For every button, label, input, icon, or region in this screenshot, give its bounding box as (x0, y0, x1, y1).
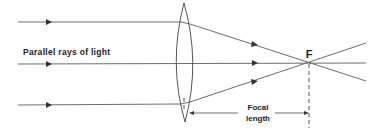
parallel-rays-label: Parallel rays of light (23, 47, 110, 57)
focal-length-label-line2: length (246, 114, 270, 123)
arrow-icon (46, 102, 52, 108)
focal-length-label-line1: Focal (248, 103, 269, 112)
lens-right-surface (184, 3, 193, 122)
incoming-ray-bottom (18, 104, 181, 105)
arrow-icon (252, 60, 258, 66)
lens-bottom-ray-segment (181, 102, 190, 104)
focal-length-indicator: Focal length (189, 103, 309, 123)
convex-lens-diagram: F Focal length Parallel rays of light (0, 0, 384, 133)
arrow-left-icon (189, 111, 194, 115)
incoming-rays (18, 19, 366, 108)
arrow-icon (46, 61, 52, 67)
focal-point: F (306, 48, 313, 128)
focal-point-label: F (306, 48, 313, 60)
arrow-icon (46, 19, 52, 25)
arrow-right-icon (304, 111, 309, 115)
